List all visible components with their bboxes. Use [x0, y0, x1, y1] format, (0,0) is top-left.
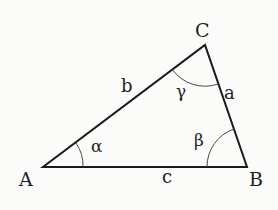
- vertex-label-c: C: [195, 21, 210, 40]
- vertex-label-b: B: [249, 170, 263, 189]
- angle-label-alpha: α: [91, 138, 102, 155]
- triangle-figure: [0, 0, 278, 210]
- vertex-label-a: A: [19, 170, 33, 189]
- angle-arc-alpha: [76, 143, 83, 167]
- angle-label-gamma: γ: [176, 83, 186, 100]
- triangle-diagram: A B C a b c α β γ: [0, 0, 278, 210]
- angle-label-beta: β: [194, 132, 204, 149]
- side-label-a: a: [224, 84, 235, 102]
- angle-arc-beta: [207, 129, 234, 167]
- triangle-outline: [43, 45, 247, 167]
- side-label-c: c: [162, 168, 172, 186]
- side-label-b: b: [121, 77, 133, 95]
